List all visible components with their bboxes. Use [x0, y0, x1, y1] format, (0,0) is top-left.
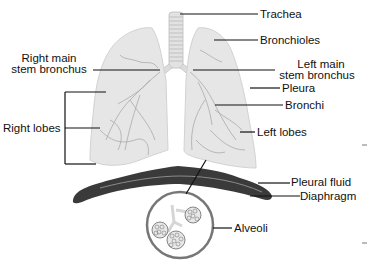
label-pleura: Pleura [282, 83, 315, 94]
label-alveoli: Alveoli [234, 223, 268, 234]
right-lung-shape [90, 28, 168, 166]
label-left-main-stem-bronchus-2: stem bronchus [272, 70, 362, 81]
label-diaphragm: Diaphragm [300, 191, 356, 202]
alveoli-magnifier [147, 192, 213, 258]
label-bronchioles: Bronchioles [260, 35, 320, 46]
edge-artifacts [362, 145, 367, 243]
left-lung-shape [184, 28, 256, 168]
label-trachea: Trachea [260, 9, 302, 20]
lung-diagram: Trachea Bronchioles Right main stem bron… [0, 0, 367, 261]
label-pleural-fluid: Pleural fluid [291, 177, 351, 188]
label-bronchi: Bronchi [285, 100, 324, 111]
label-left-lobes: Left lobes [257, 127, 307, 138]
label-right-lobes: Right lobes [3, 123, 61, 134]
label-right-main-stem-bronchus-2: stem bronchus [8, 64, 90, 75]
